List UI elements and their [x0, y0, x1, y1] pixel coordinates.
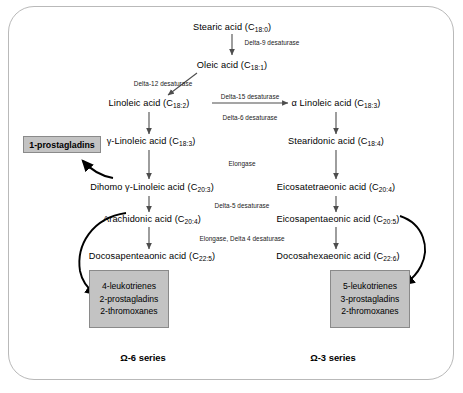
enzyme-label-elongase: Elongase — [228, 160, 255, 167]
node-alpha-linoleic-acid: α Linoleic acid (C18:3) — [292, 98, 381, 108]
node-eicosatetraeonic-acid: Eicosatetraeonic acid (C20:4) — [277, 182, 395, 192]
diagram-canvas: Stearic acid (C18:0) Oleic acid (C18:1) … — [0, 0, 463, 393]
enzyme-label-delta6: Delta-6 desaturase — [223, 114, 278, 121]
omega3-product-item: 3-prostagladins — [331, 293, 409, 306]
enzyme-label-delta9: Delta-9 desaturase — [245, 39, 300, 46]
omega3-product-item: 5-leukotrienes — [331, 280, 409, 293]
node-dihomo-gamma-linoleic-acid: Dihomo γ-Linoleic acid (C20:3) — [90, 182, 214, 192]
node-arachidonic-acid: Arachidonic acid (C20:4) — [103, 214, 201, 224]
box-1-prostagladins: 1-prostagladins — [23, 136, 101, 153]
node-docosapenteaonic-acid: Docosapenteaonic acid (C22:5) — [89, 251, 216, 261]
node-eicosapentaeonic-acid: Eicosapentaeonic acid (C20:5) — [277, 214, 400, 224]
enzyme-label-elongase-delta4: Elongase, Delta 4 desaturase — [199, 235, 284, 242]
box-omega6-products: 4-leukotrienes 2-prostagladins 2-thromox… — [89, 270, 169, 328]
series-label-omega3: Ω-3 series — [310, 352, 356, 363]
enzyme-label-delta5: Delta-5 desaturase — [215, 202, 270, 209]
box-omega3-products: 5-leukotrienes 3-prostagladins 2-thromox… — [330, 270, 410, 328]
node-stearic-acid: Stearic acid (C18:0) — [193, 22, 271, 32]
omega6-product-item: 4-leukotrienes — [90, 280, 168, 293]
node-gamma-linoleic-acid: γ-Linoleic acid (C18:3) — [107, 136, 196, 146]
omega6-product-item: 2-thromoxanes — [90, 305, 168, 318]
omega3-product-item: 2-thromoxanes — [331, 305, 409, 318]
node-stearidonic-acid: Stearidonic acid (C18:4) — [288, 136, 384, 146]
node-oleic-acid: Oleic acid (C18:1) — [197, 60, 267, 70]
enzyme-label-delta15: Delta-15 desaturase — [221, 93, 280, 100]
box-1-prostagladins-label: 1-prostagladins — [29, 140, 95, 150]
node-docosahexaeonic-acid: Docosahexaeonic acid (C22:6) — [276, 251, 399, 261]
enzyme-label-delta12: Delta-12 desaturase — [134, 80, 193, 87]
node-linoleic-acid: Linoleic acid (C18:2) — [109, 98, 190, 108]
omega6-product-item: 2-prostagladins — [90, 293, 168, 306]
series-label-omega6: Ω-6 series — [120, 352, 166, 363]
